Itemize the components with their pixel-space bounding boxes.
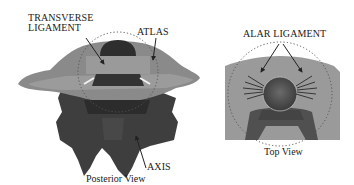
label-axis: AXIS — [147, 162, 171, 172]
caption-top-view: Top View — [264, 147, 303, 157]
dens-top — [263, 77, 297, 111]
label-atlas: ATLAS — [137, 27, 169, 37]
caption-posterior-view: Posterior View — [86, 174, 146, 184]
label-transverse-ligament-line2: LIGAMENT — [28, 23, 81, 33]
dens-lower — [92, 74, 144, 86]
top-view — [225, 42, 340, 146]
axis-spinous-shade — [102, 118, 124, 140]
label-alar-ligament: ALAR LIGAMENT — [243, 29, 326, 39]
axis-inner-shade — [84, 100, 150, 114]
transverse-ligament-band — [86, 56, 150, 74]
posterior-view — [18, 32, 200, 178]
arch-shade — [258, 110, 304, 120]
